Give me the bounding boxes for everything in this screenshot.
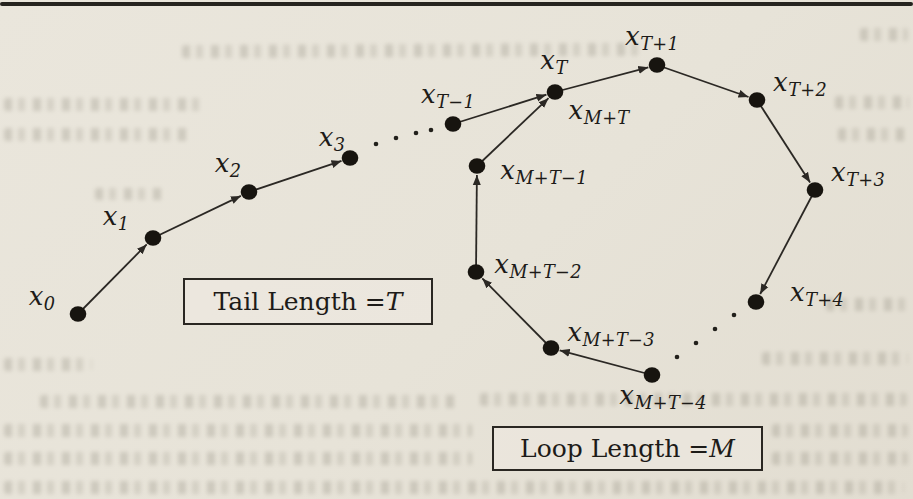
node-label-x1: x1: [103, 203, 130, 234]
node-dot-xTp2: [749, 92, 766, 107]
node-dot-xTp1: [649, 57, 666, 72]
tail-length-symbol: T: [386, 287, 403, 316]
edge-xT-xTp1: [555, 67, 648, 92]
node-label-xTm1: xT−1: [421, 81, 475, 112]
node-label-xMpT: xM+T: [569, 97, 630, 128]
node-label-xTp1: xT+1: [625, 23, 679, 54]
node-dot-x0: [70, 306, 87, 321]
tail-ellipsis-dot: [374, 142, 379, 147]
loop-length-caption-text: Loop Length =: [520, 434, 709, 463]
tail-ellipsis-dot: [394, 136, 399, 141]
edge-x0-x1: [78, 244, 147, 314]
loop-length-caption-box: Loop Length = M: [492, 426, 763, 471]
edge-xTp1-xTp2: [657, 65, 749, 97]
edge-xMpTm3-xMpTm2: [482, 278, 551, 348]
tail-ellipsis-dot: [414, 131, 419, 136]
node-label-xTp4: xT+4: [790, 279, 844, 310]
edge-x1-x2: [153, 196, 241, 238]
node-dot-x2: [241, 184, 258, 199]
edge-x2-x3: [249, 161, 342, 192]
node-dot-xTm1: [445, 116, 462, 131]
scanned-book-page: x0 x1 x2 x3 xT−1 xT xM+T xT+1 xT+2 xT+3 …: [0, 0, 913, 499]
node-label-xMpTm1: xM+T−1: [500, 157, 587, 188]
node-label-x0: x0: [29, 283, 56, 314]
tail-length-caption-text: Tail Length =: [214, 287, 386, 316]
node-dot-xTp4: [748, 294, 765, 309]
edge-xMpTm2-xMpTm1: [476, 175, 477, 272]
node-label-xMpTm2: xM+T−2: [494, 251, 581, 282]
loop-ellipsis-dot: [732, 313, 737, 318]
edge-xMpTm4-xMpTm3: [560, 350, 652, 375]
node-dot-xMpTm1: [469, 158, 486, 173]
node-dot-x1: [145, 230, 162, 245]
node-dot-xMpTm3: [543, 340, 560, 355]
node-dot-xMpTm2: [468, 264, 485, 279]
node-label-x2: x2: [215, 150, 242, 181]
loop-length-symbol: M: [709, 434, 735, 463]
node-dot-xT-xMpT: [547, 84, 564, 99]
node-label-xMpTm4: xM+T−4: [619, 382, 706, 413]
loop-ellipsis-dot: [713, 327, 718, 332]
tail-ellipsis-dot: [429, 128, 434, 133]
node-label-xTp2: xT+2: [773, 69, 827, 100]
loop-ellipsis-dot: [694, 341, 699, 346]
node-label-xTp3: xT+3: [831, 159, 885, 190]
node-dot-xMpTm4: [644, 367, 661, 382]
edge-xTp2-xTp3: [757, 100, 810, 182]
node-dot-xTp3: [807, 182, 824, 197]
node-label-xMpTm3: xM+T−3: [567, 319, 654, 350]
loop-ellipsis-dot: [675, 355, 680, 360]
tail-length-caption-box: Tail Length = T: [183, 278, 433, 325]
node-label-xT: xT: [540, 47, 567, 78]
node-label-x3: x3: [319, 124, 346, 155]
